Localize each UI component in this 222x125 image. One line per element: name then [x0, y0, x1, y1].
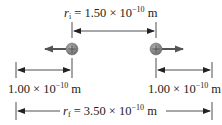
- final-separation-label: rf = 3.50 × 10−10 m: [63, 104, 157, 119]
- left-positive-charge-icon: [66, 43, 78, 55]
- initial-separation-label: ri = 1.50 × 10−10 m: [64, 6, 157, 21]
- left-displacement-bracket: [16, 58, 72, 78]
- initial-separation-bracket: [72, 22, 156, 38]
- right-displacement-bracket: [156, 58, 212, 78]
- right-displacement-label: 1.00 × 10−10 m: [148, 82, 221, 96]
- left-displacement-label: 1.00 × 10−10 m: [8, 82, 81, 96]
- right-positive-charge-icon: [150, 43, 162, 55]
